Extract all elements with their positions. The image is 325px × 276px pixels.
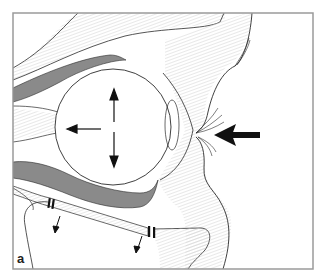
panel-label: a [17,251,24,266]
floor-fracture-arrows [53,216,142,253]
external-force-arrow [214,124,260,146]
orbit-diagram [0,0,325,276]
